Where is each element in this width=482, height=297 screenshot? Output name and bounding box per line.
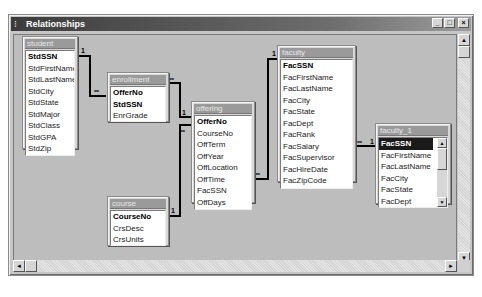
field-item[interactable]: OfferNo [111, 87, 165, 99]
field-item[interactable]: FacSupervisor [281, 152, 352, 164]
field-list[interactable]: StdSSN StdFirstName StdLastName StdCity … [25, 50, 75, 156]
field-list[interactable]: OfferNo StdSSN EnrGrade [110, 86, 166, 122]
field-list[interactable]: FacSSN FacFirstName FacLastName FacCity … [280, 59, 353, 189]
field-item[interactable]: FacSSN [281, 60, 352, 72]
field-item[interactable]: OffTerm [195, 139, 251, 151]
field-item[interactable]: FacLastName [281, 83, 352, 95]
field-item[interactable]: StdSSN [26, 51, 74, 63]
many-marker: ∞ [169, 75, 174, 82]
relationships-window-icon[interactable]: ⁝ [14, 19, 24, 29]
resize-grip-icon[interactable] [458, 260, 470, 272]
field-item[interactable]: FacDept [281, 118, 352, 130]
table-title[interactable]: student [25, 39, 75, 49]
field-item[interactable]: StdFirstName [26, 63, 74, 75]
one-marker: 1 [370, 138, 374, 145]
field-item[interactable]: StdState [26, 97, 74, 109]
table-faculty-1[interactable]: faculty_1 FacSSN FacFirstName FacLastNam… [375, 123, 451, 204]
table-title[interactable]: enrollment [110, 75, 166, 85]
table-course[interactable]: course CourseNo CrsDesc CrsUnits [107, 196, 169, 246]
table-title[interactable]: faculty [280, 48, 353, 58]
table-enrollment[interactable]: enrollment OfferNo StdSSN EnrGrade [107, 72, 169, 122]
title-bar[interactable]: ⁝ Relationships _ □ × [11, 17, 471, 31]
field-item[interactable]: StdLastName [26, 74, 74, 86]
close-button[interactable]: × [458, 18, 469, 28]
window-title: Relationships [26, 19, 85, 29]
maximize-button[interactable]: □ [444, 18, 455, 28]
relationships-canvas[interactable]: 1 ∞ ∞ 1 1 ∞ ∞ 1 ∞ 1 student StdSSN StdFi… [13, 34, 457, 264]
one-marker: 1 [182, 109, 186, 116]
field-list[interactable]: OfferNo CourseNo OffTerm OffYear OffLoca… [194, 115, 252, 210]
scroll-up-icon[interactable]: ▲ [437, 138, 447, 148]
field-item[interactable]: OfferNo [195, 116, 251, 128]
field-item[interactable]: CourseNo [195, 128, 251, 140]
field-item[interactable]: FacFirstName [281, 72, 352, 84]
many-marker: ∞ [357, 138, 362, 145]
field-item[interactable]: StdMajor [26, 109, 74, 121]
field-list[interactable]: CourseNo CrsDesc CrsUnits [110, 210, 166, 246]
field-item[interactable]: FacRank [281, 129, 352, 141]
field-item[interactable]: FacZipCode [281, 175, 352, 187]
field-item[interactable]: FacSSN [195, 185, 251, 197]
relationship-line[interactable] [179, 124, 191, 126]
field-item[interactable]: CrsDesc [111, 223, 165, 235]
horizontal-scrollbar[interactable]: ◄ ► [13, 260, 457, 272]
field-list[interactable]: FacSSN FacFirstName FacLastName FacCity … [378, 137, 448, 208]
field-item[interactable]: FacCity [281, 95, 352, 107]
relationship-line[interactable] [89, 55, 91, 97]
field-item[interactable]: OffTime [195, 174, 251, 186]
scroll-up-icon[interactable]: ▲ [458, 34, 470, 46]
field-item[interactable]: StdClass [26, 120, 74, 132]
field-item[interactable]: CrsUnits [111, 234, 165, 246]
table-faculty[interactable]: faculty FacSSN FacFirstName FacLastName … [277, 45, 356, 182]
field-item[interactable]: CourseNo [111, 211, 165, 223]
field-item[interactable]: OffDays [195, 197, 251, 209]
table-title[interactable]: course [110, 199, 166, 209]
field-list-scrollbar[interactable]: ▲ ▼ [437, 138, 447, 207]
field-item[interactable]: StdGPA [26, 132, 74, 144]
field-item[interactable]: StdSSN [111, 99, 165, 111]
vertical-scroll-thumb[interactable] [458, 46, 470, 58]
table-title[interactable]: faculty_1 [378, 126, 448, 136]
relationships-window: ⁝ Relationships _ □ × 1 ∞ ∞ 1 1 ∞ ∞ 1 [8, 14, 474, 276]
horizontal-scroll-thumb[interactable] [25, 260, 37, 272]
field-item[interactable]: FacHireDate [281, 164, 352, 176]
field-item[interactable]: EnrGrade [111, 110, 165, 122]
table-offering[interactable]: offering OfferNo CourseNo OffTerm OffYea… [191, 101, 255, 203]
many-marker: ∞ [255, 170, 260, 177]
scroll-right-icon[interactable]: ► [445, 260, 457, 272]
relationship-line[interactable] [179, 82, 181, 118]
scroll-down-icon[interactable]: ▼ [437, 197, 447, 207]
table-student[interactable]: student StdSSN StdFirstName StdLastName … [22, 36, 78, 149]
relationship-line[interactable] [179, 124, 181, 217]
field-item[interactable]: StdZip [26, 143, 74, 155]
field-item-selected[interactable]: FacSSN [379, 138, 433, 150]
field-item[interactable]: FacSalary [281, 141, 352, 153]
minimize-button[interactable]: _ [432, 18, 443, 28]
many-marker: ∞ [94, 87, 99, 94]
many-marker: ∞ [180, 127, 185, 134]
scroll-left-icon[interactable]: ◄ [13, 260, 25, 272]
relationship-line[interactable] [89, 95, 106, 97]
one-marker: 1 [171, 207, 175, 214]
field-item[interactable]: FacState [281, 106, 352, 118]
relationship-line[interactable] [179, 116, 191, 118]
relationship-line[interactable] [267, 58, 269, 180]
one-marker: 1 [81, 47, 85, 54]
field-item[interactable]: OffYear [195, 151, 251, 163]
table-title[interactable]: offering [194, 104, 252, 114]
field-item[interactable]: StdCity [26, 86, 74, 98]
scroll-thumb[interactable] [437, 148, 447, 170]
field-item[interactable]: OffLocation [195, 162, 251, 174]
vertical-scrollbar[interactable]: ▲ ▼ [458, 34, 470, 264]
relationship-line[interactable] [254, 178, 268, 180]
one-marker: 1 [272, 50, 276, 57]
